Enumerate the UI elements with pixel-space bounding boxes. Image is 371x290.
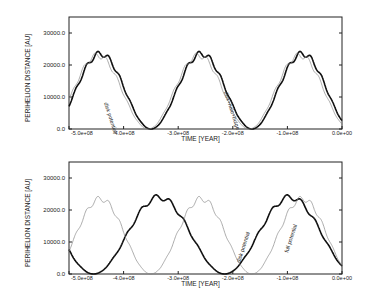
x-tick-label: -4.0e+08 — [113, 275, 135, 281]
x-tick-label: -2.0e+08 — [222, 275, 244, 281]
x-tick-label: 0.0e+00 — [332, 275, 352, 281]
x-tick-label: -5.0e+08 — [71, 275, 93, 281]
top-chart: 0.010000.020000.030000.0-5.0e+08-4.0e+08… — [0, 0, 371, 145]
x-tick-label: 0.0e+00 — [332, 130, 352, 136]
x-tick-label: -5.0e+08 — [71, 130, 93, 136]
top-chart-plot: 0.010000.020000.030000.0-5.0e+08-4.0e+08… — [0, 0, 371, 145]
x-axis-label: TIME [YEAR] — [181, 135, 220, 143]
x-axis-label: TIME [YEAR] — [181, 280, 220, 288]
x-tick-label: -1.0e+08 — [276, 130, 298, 136]
y-axis-label: PERIHELION DISTANCE [AU] — [24, 179, 32, 267]
y-tick-label: 10000.0 — [43, 94, 65, 100]
y-tick-label: 10000.0 — [43, 239, 65, 245]
series-annotation: disk+halo+bulge — [223, 90, 241, 130]
y-axis-label: PERIHELION DISTANCE [AU] — [24, 34, 32, 122]
y-tick-label: 0.0 — [57, 271, 66, 277]
y-tick-label: 20000.0 — [43, 62, 65, 68]
series-annotation: full potential — [283, 224, 298, 254]
plot-frame — [69, 162, 342, 274]
series-line — [69, 195, 342, 274]
y-tick-label: 0.0 — [57, 126, 66, 132]
bottom-chart: 0.010000.020000.030000.0-5.0e+08-4.0e+08… — [0, 145, 371, 290]
x-tick-label: -2.0e+08 — [222, 130, 244, 136]
y-tick-label: 30000.0 — [43, 175, 65, 181]
bottom-chart-plot: 0.010000.020000.030000.0-5.0e+08-4.0e+08… — [0, 145, 371, 290]
y-tick-label: 20000.0 — [43, 207, 65, 213]
y-tick-label: 30000.0 — [43, 30, 65, 36]
x-tick-label: -1.0e+08 — [276, 275, 298, 281]
